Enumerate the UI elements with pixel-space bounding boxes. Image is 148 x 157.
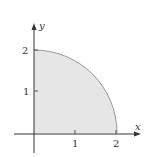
y-axis-label: y (38, 20, 45, 31)
x-axis-arrow-icon (134, 132, 141, 137)
x-axis-label: x (135, 121, 141, 132)
shaded-region (34, 50, 117, 133)
x-tick-label-1: 1 (72, 138, 78, 149)
y-tick-label-2: 2 (22, 45, 28, 56)
y-tick-label-1: 1 (23, 86, 29, 97)
x-tick-label-2: 2 (113, 138, 119, 149)
quarter-circle-diagram: 1 2 1 2 x y (0, 0, 148, 157)
y-axis-arrow-icon (32, 23, 37, 30)
